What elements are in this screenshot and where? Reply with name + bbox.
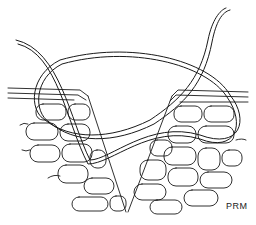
artist-signature: PRM [226,201,248,211]
tissue-surface-left [8,88,88,100]
suture-strand [16,8,240,164]
cells-right [134,106,246,214]
suture-tissue-drawing [0,0,256,225]
incision-left-edge [88,96,126,212]
tissue-surface-right [170,90,248,102]
